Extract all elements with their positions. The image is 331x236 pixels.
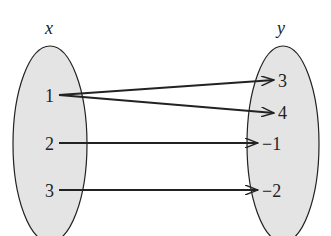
range-label: y	[275, 18, 285, 38]
domain-value: 1	[45, 86, 54, 106]
range-value: −1	[262, 134, 281, 154]
range-value: 3	[278, 71, 287, 91]
range-value: 4	[278, 103, 287, 123]
arrow-1-to-4	[59, 95, 274, 113]
range-value: −2	[262, 181, 281, 201]
domain-value: 2	[45, 134, 54, 154]
arrow-1-to-3	[59, 80, 274, 95]
mapping-diagram: x y 1 2 3 3 4 −1 −2	[0, 0, 331, 236]
domain-value: 3	[45, 181, 54, 201]
domain-label: x	[44, 18, 53, 38]
